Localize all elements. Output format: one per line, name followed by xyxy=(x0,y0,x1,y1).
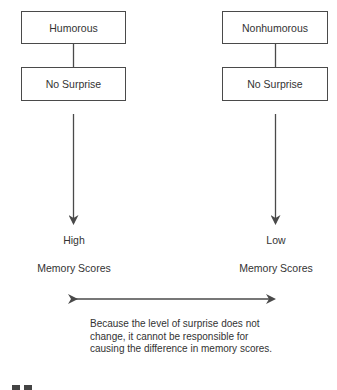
right-no-surprise-box: No Surprise xyxy=(222,67,328,101)
humorous-box: Humorous xyxy=(21,11,126,44)
nonhumorous-label: Nonhumorous xyxy=(242,22,308,34)
humorous-label: Humorous xyxy=(49,22,97,34)
left-outcome-label: Memory Scores xyxy=(37,262,111,274)
right-outcome-label: Memory Scores xyxy=(239,262,313,274)
right-outcome-level: Low xyxy=(266,234,285,246)
left-no-surprise-label: No Surprise xyxy=(46,78,101,90)
left-no-surprise-box: No Surprise xyxy=(21,67,126,101)
left-outcome-level: High xyxy=(63,234,85,246)
figure-number-mark xyxy=(24,385,32,390)
explanation-caption: Because the level of surprise does not c… xyxy=(90,318,280,356)
right-no-surprise-label: No Surprise xyxy=(247,78,302,90)
figure-number-mark xyxy=(12,385,20,390)
nonhumorous-box: Nonhumorous xyxy=(222,11,328,44)
